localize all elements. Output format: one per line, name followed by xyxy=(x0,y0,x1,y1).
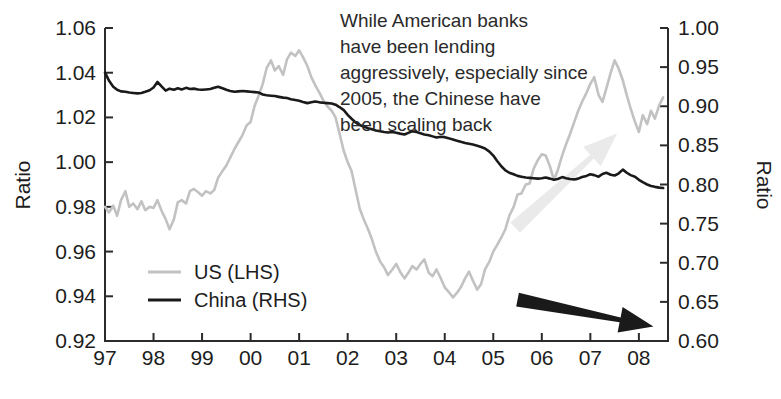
legend-label: China (RHS) xyxy=(194,289,307,311)
x-tick-label: 03 xyxy=(385,346,408,369)
legend-label: US (LHS) xyxy=(194,261,280,283)
x-tick-label: 98 xyxy=(142,346,165,369)
annotation-line: 2005, the Chinese have xyxy=(340,88,541,109)
y-right-tick-label: 0.95 xyxy=(678,55,719,78)
annotation-line: been scaling back xyxy=(340,114,493,135)
y-right-tick-label: 0.65 xyxy=(678,290,719,313)
x-tick-label: 97 xyxy=(93,346,116,369)
x-tick-label: 99 xyxy=(190,346,213,369)
y-right-tick-label: 0.90 xyxy=(678,94,719,117)
y-axis-left-title: Ratio xyxy=(11,160,34,209)
y-left-tick-label: 1.04 xyxy=(55,61,96,84)
y-right-tick-label: 0.70 xyxy=(678,251,719,274)
y-right-tick-label: 0.85 xyxy=(678,133,719,156)
x-tick-label: 05 xyxy=(482,346,505,369)
y-left-tick-label: 0.94 xyxy=(55,284,96,307)
chart-figure: 0.920.940.960.981.001.021.041.06 0.600.6… xyxy=(0,0,781,399)
y-left-tick-label: 1.02 xyxy=(55,105,96,128)
y-left-tick-label: 1.06 xyxy=(55,16,96,39)
chart-canvas: 0.920.940.960.981.001.021.041.06 0.600.6… xyxy=(0,0,781,399)
y-axis-right-title: Ratio xyxy=(753,160,776,209)
y-left-tick-label: 0.98 xyxy=(55,195,96,218)
y-left-tick-label: 0.92 xyxy=(55,329,96,352)
y-right-tick-label: 0.80 xyxy=(678,173,719,196)
x-tick-label: 01 xyxy=(287,346,310,369)
annotation-line: aggressively, especially since xyxy=(340,62,588,83)
chart-background xyxy=(0,0,781,399)
x-tick-label: 04 xyxy=(433,346,457,369)
y-right-tick-label: 0.60 xyxy=(678,329,719,352)
annotation-line: While American banks xyxy=(340,10,528,31)
annotation-line: have been lending xyxy=(340,36,495,57)
x-tick-label: 00 xyxy=(239,346,262,369)
x-tick-label: 06 xyxy=(530,346,553,369)
x-tick-label: 02 xyxy=(336,346,359,369)
x-tick-label: 08 xyxy=(627,346,650,369)
y-right-tick-label: 1.00 xyxy=(678,16,719,39)
y-right-tick-label: 0.75 xyxy=(678,212,719,235)
x-tick-label: 07 xyxy=(579,346,602,369)
y-left-tick-label: 1.00 xyxy=(55,150,96,173)
y-left-tick-label: 0.96 xyxy=(55,240,96,263)
